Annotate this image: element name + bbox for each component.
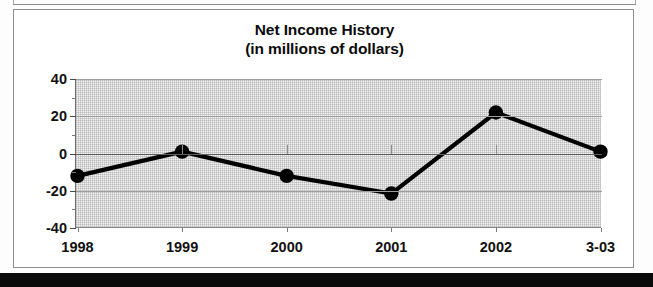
y-axis-minor-tick--30 [72, 209, 76, 210]
page-edge-band [0, 273, 653, 287]
y-axis-label-20: 20 [51, 108, 67, 124]
x-axis-tick-2002 [496, 145, 497, 154]
x-axis-bottom-tick-3-03 [601, 228, 602, 232]
y-axis-label-40: 40 [51, 71, 67, 87]
series-overlay [62, 69, 622, 249]
x-axis-label-1998: 1998 [61, 239, 93, 255]
y-axis-label-0: 0 [59, 146, 67, 162]
y-axis-minor-tick-10 [72, 135, 76, 136]
chart-frame: Net Income History (in millions of dolla… [13, 9, 634, 268]
plot-area: 40200-20-40199819992000200120023-03 [75, 79, 601, 228]
y-axis-label--20: -20 [46, 183, 67, 199]
chart-title-block: Net Income History (in millions of dolla… [14, 20, 635, 58]
x-axis-label-2000: 2000 [271, 239, 303, 255]
gridline-y--20 [76, 191, 602, 192]
y-axis-tick-40 [70, 79, 76, 80]
x-axis-bottom-tick-2000 [287, 228, 288, 232]
x-axis-label-1999: 1999 [166, 239, 198, 255]
x-axis-bottom-tick-2002 [496, 228, 497, 232]
y-axis-tick--40 [70, 228, 76, 229]
x-axis-bottom-tick-1999 [182, 228, 183, 232]
data-point-3-03 [593, 144, 607, 158]
data-point-1998 [70, 169, 84, 183]
adjacent-box-edge [13, 0, 636, 5]
x-axis-tick-2001 [391, 145, 392, 154]
y-axis-tick--20 [70, 191, 76, 192]
x-axis-bottom-tick-2001 [391, 228, 392, 232]
y-axis-label--40: -40 [46, 220, 67, 236]
gridline-y-40 [76, 79, 602, 80]
data-point-2000 [280, 169, 294, 183]
x-axis-tick-2000 [287, 145, 288, 154]
scanned-page: Net Income History (in millions of dolla… [0, 0, 653, 287]
x-axis-label-2001: 2001 [375, 239, 407, 255]
gridline-y-0 [76, 154, 602, 155]
x-axis-tick-1999 [182, 145, 183, 154]
x-axis-label-3-03: 3-03 [586, 239, 615, 255]
y-axis-tick-0 [70, 154, 76, 155]
chart-subtitle: (in millions of dollars) [14, 39, 635, 58]
y-axis-minor-tick-30 [72, 98, 76, 99]
data-point-2001 [384, 186, 398, 200]
x-axis-bottom-tick-1998 [78, 228, 79, 232]
y-axis-minor-tick--10 [72, 172, 76, 173]
gridline-y-20 [76, 116, 602, 117]
y-axis-tick-20 [70, 116, 76, 117]
x-axis-label-2002: 2002 [480, 239, 512, 255]
chart-title: Net Income History [14, 20, 635, 39]
data-point-2002 [489, 105, 503, 119]
